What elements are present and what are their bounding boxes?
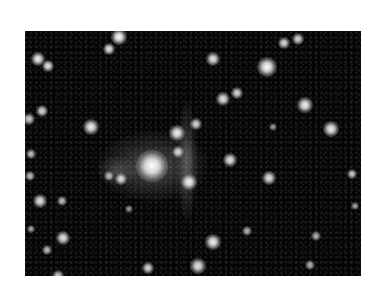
star <box>103 43 115 55</box>
star <box>27 225 35 233</box>
star <box>56 231 70 245</box>
star <box>269 123 277 131</box>
star <box>172 146 184 158</box>
star <box>231 87 243 99</box>
star <box>216 92 230 106</box>
star <box>42 60 54 72</box>
star <box>42 245 52 255</box>
star <box>242 226 252 236</box>
star <box>181 174 197 190</box>
star <box>311 231 321 241</box>
star <box>83 119 99 135</box>
star <box>125 205 133 213</box>
star <box>25 171 35 181</box>
star <box>36 105 48 117</box>
star <box>347 169 357 179</box>
star <box>278 37 290 49</box>
star <box>57 196 67 206</box>
star <box>206 52 220 66</box>
star <box>190 258 206 274</box>
star <box>169 125 185 141</box>
star <box>190 118 202 130</box>
star <box>257 57 277 77</box>
star <box>26 149 36 159</box>
star <box>104 171 114 181</box>
star <box>323 121 339 137</box>
star <box>292 33 304 45</box>
star <box>305 260 315 270</box>
star <box>52 270 64 276</box>
star <box>351 202 359 210</box>
star <box>142 262 154 274</box>
star <box>205 234 221 250</box>
star <box>115 173 127 185</box>
star <box>136 150 168 182</box>
star <box>262 171 276 185</box>
star <box>33 194 47 208</box>
star-field-image <box>25 31 361 276</box>
star <box>223 153 237 167</box>
star <box>297 97 313 113</box>
